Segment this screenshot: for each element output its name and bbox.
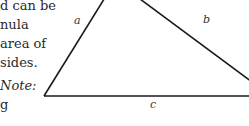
side-b-line: [136, 0, 249, 82]
triangle-figure: [0, 0, 249, 126]
side-b-label: b: [203, 13, 210, 26]
side-a-label: a: [74, 14, 81, 27]
side-c-label: c: [150, 98, 156, 111]
